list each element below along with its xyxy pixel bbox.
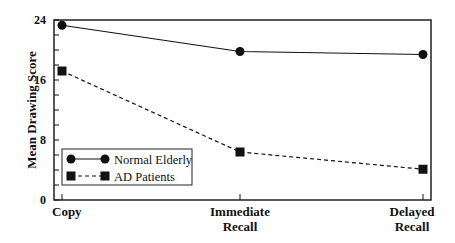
y-tick-label: 24 [34,13,46,27]
line-chart: 081624 CopyImmediateRecallDelayedRecall … [0,0,455,243]
legend-label: Normal Elderly [114,153,193,167]
x-tick-label: Delayed [390,204,436,219]
y-axis-label: Mean Drawing Score [24,51,39,169]
legend: Normal ElderlyAD Patients [62,149,193,185]
y-tick-label: 0 [40,193,46,207]
legend-square-marker [101,172,110,181]
legend-label: AD Patients [114,170,175,184]
square-marker [58,67,67,76]
x-tick-label: Copy [52,204,82,219]
square-marker [236,148,245,157]
legend-square-marker [67,172,76,181]
legend-circle-marker [101,155,110,164]
square-marker [419,165,428,174]
circle-marker [419,50,428,59]
y-tick-label: 8 [40,133,46,147]
circle-marker [58,21,67,30]
x-tick-label: Recall [395,219,430,234]
circle-marker [236,47,245,56]
x-tick-label: Recall [223,219,258,234]
x-tick-label: Immediate [210,204,270,219]
legend-circle-marker [67,155,76,164]
